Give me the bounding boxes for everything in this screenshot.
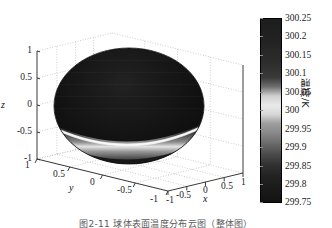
colorbar-gradient	[261, 19, 281, 202]
axes-3d	[0, 0, 258, 214]
x-tick-label: 1	[241, 178, 246, 188]
colorbar-tick-label: 299.8	[285, 180, 306, 190]
colorbar[interactable]	[260, 18, 282, 203]
y-tick-label: 0	[90, 178, 95, 188]
colorbar-notch	[260, 147, 263, 148]
x-tick-label: -1	[166, 196, 174, 206]
y-tick-label: 0.5	[53, 170, 65, 180]
y-tick-label: 1	[25, 161, 30, 171]
x-tick-label: 0.5	[221, 182, 233, 192]
colorbar-notch	[260, 110, 263, 111]
colorbar-tick-label: 299.95	[285, 125, 311, 135]
colorbar-notch	[260, 73, 263, 74]
z-tick-label: 0.5	[4, 73, 32, 83]
z-tick-label: -0.5	[0, 127, 32, 137]
colorbar-title: 温度/K	[300, 78, 310, 107]
colorbar-notch	[260, 18, 263, 19]
plot-area: 1 0.5 0 -0.5 -1 z 1 0.5 0 -0.5 -1 y -1 -…	[0, 0, 258, 214]
colorbar-notch	[260, 202, 263, 203]
figure-caption: 图2-11 球体表面温度分布云图（整体图）	[0, 219, 332, 228]
colorbar-notch	[260, 184, 263, 185]
x-tick-label: -0.5	[176, 191, 191, 201]
colorbar-tick-label: 300.25	[285, 14, 311, 24]
figure-container: 1 0.5 0 -0.5 -1 z 1 0.5 0 -0.5 -1 y -1 -…	[0, 0, 332, 228]
colorbar-notch	[260, 36, 263, 37]
colorbar-notch	[260, 55, 263, 56]
colorbar-tick-label: 299.9	[285, 143, 306, 153]
y-axis-label: y	[69, 183, 73, 193]
colorbar-tick-label: 300.15	[285, 51, 311, 61]
x-axis-label: x	[203, 194, 207, 204]
colorbar-tick-label: 299.75	[285, 198, 311, 208]
y-tick-label: -0.5	[117, 186, 132, 196]
colorbar-tick-label: 300	[285, 106, 299, 116]
z-tick-label: 1	[8, 46, 32, 56]
y-tick-label: -1	[150, 195, 158, 205]
colorbar-notch	[260, 166, 263, 167]
z-axis-label: z	[1, 100, 5, 110]
colorbar-notch	[260, 129, 263, 130]
colorbar-notch	[260, 92, 263, 93]
colorbar-tick-label: 299.85	[285, 162, 311, 172]
colorbar-tick-label: 300.2	[285, 32, 306, 42]
z-tick-label: 0	[8, 100, 32, 110]
